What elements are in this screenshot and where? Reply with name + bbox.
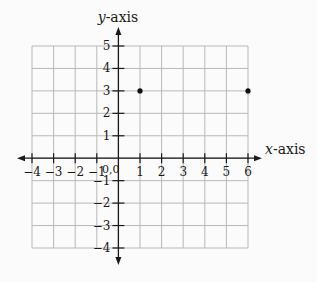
y-tick-label: 1 (103, 129, 111, 143)
arrow-up-icon (115, 27, 121, 35)
y-axis-label: y-axis (97, 9, 139, 25)
grid (32, 46, 248, 248)
y-tick-label: 4 (103, 61, 111, 75)
coordinate-plane: −4−3−2−112345654321−1−2−3−4 y-axis x-axi… (0, 0, 317, 282)
x-tick-label: 5 (223, 165, 231, 179)
x-tick-label: 4 (201, 165, 209, 179)
y-tick-label: 2 (103, 106, 111, 120)
x-axis-label: x-axis (265, 141, 306, 157)
y-tick-label: −3 (93, 219, 111, 233)
arrow-down-icon (115, 257, 121, 265)
y-tick-label: −4 (93, 241, 111, 255)
y-tick-label: 5 (103, 39, 111, 53)
x-tick-label: 6 (244, 165, 252, 179)
y-tick-label: −2 (93, 196, 111, 210)
ticks: −4−3−2−112345654321−1−2−3−4 (23, 39, 252, 255)
data-point (137, 88, 142, 93)
y-tick-label: 3 (103, 84, 111, 98)
arrow-right-icon (254, 155, 262, 161)
origin-label: 0,0 (102, 163, 120, 176)
data-point (245, 88, 250, 93)
x-tick-label: 2 (158, 165, 166, 179)
x-tick-label: −2 (66, 165, 84, 179)
arrow-left-icon (17, 155, 25, 161)
x-tick-label: 3 (179, 165, 187, 179)
x-tick-label: −4 (23, 165, 41, 179)
x-tick-label: −3 (45, 165, 63, 179)
x-tick-label: 1 (136, 165, 144, 179)
